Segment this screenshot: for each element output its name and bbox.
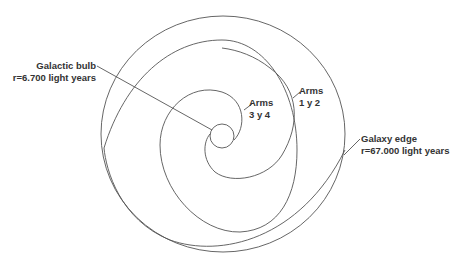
bulb-label-title: Galactic bulb (0, 60, 96, 72)
edge-label-radius: r=67.000 light years (361, 145, 449, 157)
arms-outer-label-title: Arms (299, 85, 323, 97)
bulb-label-radius: r=6.700 light years (0, 72, 96, 84)
arms-outer-label: Arms 1 y 2 (299, 85, 323, 109)
spiral-arm-b-outer (104, 148, 345, 246)
arms-inner-label-numbers: 3 y 4 (249, 109, 273, 121)
bulb-label: Galactic bulb r=6.700 light years (0, 60, 96, 84)
spiral-arm-a (104, 40, 297, 232)
edge-label: Galaxy edge r=67.000 light years (361, 133, 449, 157)
arms-inner-label: Arms 3 y 4 (249, 97, 273, 121)
arms-inner-label-title: Arms (249, 97, 273, 109)
galaxy-drawing (0, 0, 458, 263)
galaxy-edge-circle (101, 16, 345, 252)
edge-leader-line (344, 139, 360, 155)
galactic-bulb-circle (210, 124, 234, 148)
edge-label-title: Galaxy edge (361, 133, 449, 145)
galaxy-diagram: Galactic bulb r=6.700 light years Arms 3… (0, 0, 458, 263)
arms-outer-label-numbers: 1 y 2 (299, 97, 323, 109)
